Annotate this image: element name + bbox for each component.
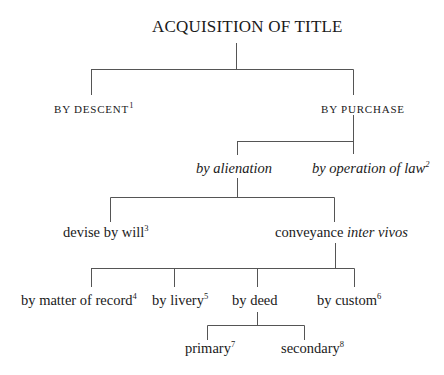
footnote-marker: 6: [377, 291, 381, 301]
node-devise-by-will: devise by will3: [63, 224, 149, 240]
footnote-marker: 2: [425, 159, 429, 169]
tree-connectors: [0, 0, 444, 375]
node-primary: primary7: [185, 340, 235, 356]
node-conveyance-inter-vivos: conveyance inter vivos: [275, 224, 408, 240]
node-by-operation-of-law: by operation of law2: [312, 160, 429, 176]
node-by-descent: BY DESCENT1: [54, 101, 134, 117]
node-by-custom: by custom6: [317, 292, 381, 308]
footnote-marker: 5: [204, 291, 208, 301]
footnote-marker: 7: [231, 339, 235, 349]
footnote-marker: 4: [133, 291, 137, 301]
node-by-matter-of-record: by matter of record4: [21, 292, 137, 308]
node-by-alienation: by alienation: [196, 160, 272, 176]
node-root: ACQUISITION OF TITLE: [152, 19, 343, 35]
node-by-deed: by deed: [232, 292, 278, 308]
node-secondary: secondary8: [281, 340, 344, 356]
node-by-purchase: BY PURCHASE: [321, 101, 405, 117]
node-by-livery: by livery5: [152, 292, 208, 308]
footnote-marker: 8: [340, 339, 344, 349]
footnote-marker: 1: [129, 100, 134, 110]
footnote-marker: 3: [144, 223, 148, 233]
